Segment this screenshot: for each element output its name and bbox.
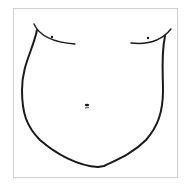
left-body-contour [22,30,98,167]
navel-lower-line [85,108,89,109]
navel [85,104,89,106]
left-nipple [51,36,53,38]
left-clavicle-line [34,24,75,44]
right-body-contour [98,36,165,167]
right-nipple [147,37,149,39]
torso-outline-drawing [0,0,187,190]
